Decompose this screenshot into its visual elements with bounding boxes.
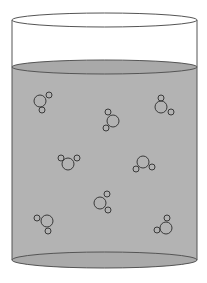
- water-container-diagram: Water molecules in a container: [0, 0, 207, 283]
- container-top-rim: [12, 13, 197, 27]
- container-bottom: [12, 252, 197, 268]
- liquid-surface: [12, 60, 197, 74]
- liquid-body: [12, 67, 197, 268]
